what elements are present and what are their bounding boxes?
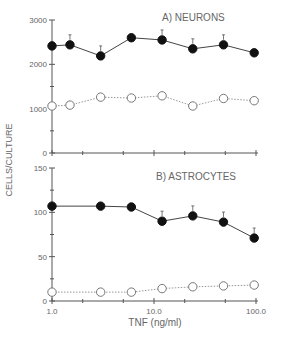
- x-tick-label: 100.0: [246, 307, 267, 316]
- y-axis-label: CELLS/CULTURE: [4, 124, 14, 197]
- filled-circle-marker: [189, 45, 197, 53]
- filled-circle-marker: [219, 41, 227, 49]
- panel-title: A) NEURONS: [162, 12, 225, 23]
- open-circle-marker: [127, 94, 135, 102]
- filled-circle-marker: [219, 218, 227, 226]
- chart: 0100020003000A) NEURONS0501001501.010.01…: [0, 0, 282, 346]
- y-tick-label: 0: [43, 149, 48, 158]
- open-circle-marker: [48, 102, 56, 110]
- x-tick-label: 10.0: [146, 307, 162, 316]
- filled-circle-marker: [250, 234, 258, 242]
- filled-circle-marker: [250, 49, 258, 57]
- filled-circle-marker: [189, 212, 197, 220]
- open-circle-marker: [189, 102, 197, 110]
- y-tick-label: 100: [34, 208, 48, 217]
- y-tick-label: 1000: [29, 105, 47, 114]
- filled-circle-marker: [96, 202, 104, 210]
- x-axis-label: TNF (ng/ml): [128, 317, 181, 328]
- open-circle-marker: [189, 283, 197, 291]
- filled-circle-marker: [96, 52, 104, 60]
- open-circle-marker: [66, 101, 74, 109]
- open-circle-marker: [96, 288, 104, 296]
- open-circle-marker: [96, 93, 104, 101]
- filled-circle-marker: [66, 41, 74, 49]
- filled-circle-marker: [127, 34, 135, 42]
- filled-circle-marker: [127, 203, 135, 211]
- open-circle-marker: [158, 92, 166, 100]
- y-tick-label: 2000: [29, 60, 47, 69]
- open-circle-marker: [250, 281, 258, 289]
- y-tick-label: 0: [43, 297, 48, 306]
- open-circle-marker: [219, 282, 227, 290]
- filled-circle-marker: [158, 36, 166, 44]
- open-circle-marker: [48, 288, 56, 296]
- y-tick-label: 50: [38, 253, 47, 262]
- filled-circle-marker: [48, 202, 56, 210]
- open-circle-marker: [127, 288, 135, 296]
- open-circle-marker: [250, 96, 258, 104]
- filled-circle-marker: [158, 217, 166, 225]
- x-tick-label: 1.0: [46, 307, 58, 316]
- filled-circle-marker: [48, 42, 56, 50]
- open-circle-marker: [219, 94, 227, 102]
- open-circle-marker: [158, 284, 166, 292]
- y-tick-label: 3000: [29, 16, 47, 25]
- y-tick-label: 150: [34, 164, 48, 173]
- panel-title: B) ASTROCYTES: [156, 171, 236, 182]
